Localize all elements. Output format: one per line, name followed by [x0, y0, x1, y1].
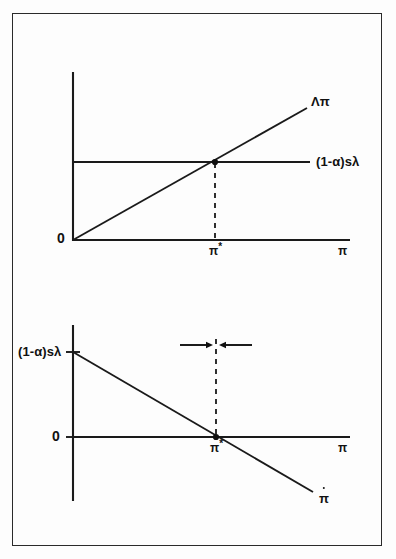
stability-arrow-left	[219, 342, 252, 348]
top-equilibrium-label: π*	[209, 245, 222, 257]
bottom-falling-line-label-base: π	[319, 491, 329, 506]
pi-dot-glyph: π	[319, 492, 329, 505]
top-origin-label: 0	[57, 231, 65, 245]
top-x-axis-label: π	[338, 245, 347, 257]
top-equilibrium-label-star: *	[218, 241, 222, 252]
bottom-equilibrium-label: π*	[210, 442, 223, 454]
bottom-equilibrium-label-base: π	[210, 441, 219, 455]
bottom-y-intercept-label: (1-α)sλ	[18, 345, 61, 358]
top-rising-line-lambda-pi	[73, 108, 307, 240]
bottom-x-axis-label: π	[338, 442, 347, 454]
top-equilibrium-point	[212, 159, 218, 165]
bottom-zero-label: 0	[52, 429, 60, 443]
bottom-panel-group	[66, 325, 350, 501]
top-rising-line-label: Λπ	[311, 95, 330, 108]
top-equilibrium-label-base: π	[209, 244, 218, 258]
figure-root: Λπ (1-α)sλ 0 π* π (1-α)sλ 0 π* π π	[0, 0, 396, 559]
top-horizontal-line-label: (1-α)sλ	[316, 155, 359, 168]
top-panel-group	[73, 72, 350, 241]
bottom-equilibrium-label-star: *	[219, 438, 223, 449]
bottom-falling-line-label: π	[319, 492, 329, 505]
stability-arrow-right	[180, 342, 213, 348]
bottom-falling-line-pi-dot	[73, 352, 313, 492]
diagram-canvas	[0, 0, 396, 559]
